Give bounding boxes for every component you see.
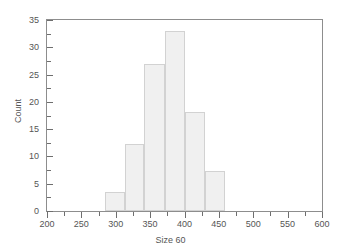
y-tick-minor	[47, 61, 51, 62]
x-tick-minor	[202, 212, 203, 216]
histogram-bar	[105, 192, 124, 211]
histogram-bar	[144, 64, 165, 211]
y-tick-minor	[47, 116, 51, 117]
bars-layer	[47, 20, 322, 211]
y-tick-major	[47, 102, 53, 103]
x-tick-major	[150, 212, 151, 218]
x-tick-major	[81, 212, 82, 218]
histogram-bar	[125, 144, 144, 211]
x-tick-minor	[64, 212, 65, 216]
y-tick-major	[47, 47, 53, 48]
y-tick-major	[47, 75, 53, 76]
y-tick-major	[47, 184, 53, 185]
histogram-bar	[165, 31, 185, 211]
x-tick-minor	[167, 212, 168, 216]
y-tick-label: 5	[0, 180, 39, 189]
x-tick-major	[288, 212, 289, 218]
y-tick-major	[47, 129, 53, 130]
y-tick-minor	[47, 88, 51, 89]
y-tick-major	[47, 156, 53, 157]
x-tick-major	[322, 212, 323, 218]
histogram-bar	[205, 171, 225, 211]
x-tick-major	[185, 212, 186, 218]
x-tick-minor	[133, 212, 134, 216]
y-tick-minor	[47, 197, 51, 198]
y-tick-label: 35	[0, 16, 39, 25]
y-tick-label: 10	[0, 152, 39, 161]
x-tick-minor	[99, 212, 100, 216]
x-tick-major	[116, 212, 117, 218]
x-tick-minor	[270, 212, 271, 216]
x-tick-major	[253, 212, 254, 218]
y-tick-label: 0	[0, 207, 39, 216]
y-tick-minor	[47, 170, 51, 171]
x-tick-label: 600	[302, 220, 341, 229]
x-tick-major	[47, 212, 48, 218]
x-axis-title: Size 60	[0, 235, 341, 245]
y-axis-title: Count	[13, 81, 23, 141]
histogram-bar	[185, 112, 206, 211]
y-tick-label: 30	[0, 43, 39, 52]
x-tick-minor	[305, 212, 306, 216]
y-tick-minor	[47, 34, 51, 35]
x-tick-major	[219, 212, 220, 218]
y-tick-label: 25	[0, 71, 39, 80]
y-tick-major	[47, 20, 53, 21]
x-tick-minor	[236, 212, 237, 216]
histogram-figure: 05101520253035 2002503003504004505005506…	[0, 0, 341, 252]
y-tick-minor	[47, 143, 51, 144]
